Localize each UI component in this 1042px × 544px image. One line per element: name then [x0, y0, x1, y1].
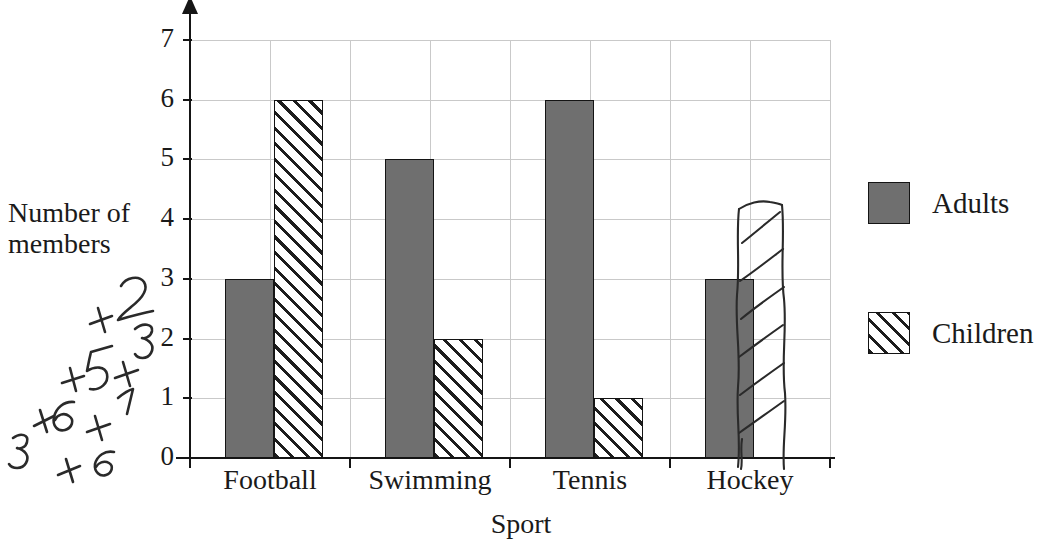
gridline-vertical: [830, 40, 831, 458]
bar-football-adults: [225, 279, 274, 458]
bar-tennis-children: [594, 398, 643, 458]
y-axis-title-line1: Number of: [8, 197, 168, 228]
bar-hockey-adults: [705, 279, 754, 458]
y-tick-mark: [183, 218, 192, 220]
y-axis-line: [189, 6, 191, 460]
legend-label-adults: Adults: [932, 189, 1009, 218]
y-tick-label: 2: [140, 324, 174, 351]
legend-label-children: Children: [932, 319, 1034, 348]
y-tick-label: 0: [140, 443, 174, 470]
bar-swimming-adults: [385, 159, 434, 458]
gridline-vertical: [510, 40, 511, 458]
y-tick-label: 5: [140, 144, 174, 171]
bar-swimming-children: [434, 339, 483, 458]
y-tick-label: 6: [140, 85, 174, 112]
y-tick-mark: [183, 158, 192, 160]
hatched-swatch-icon: [868, 312, 910, 354]
solid-gray-swatch-icon: [868, 182, 910, 224]
y-tick-mark: [183, 397, 192, 399]
y-axis-title: Number of members: [8, 197, 168, 260]
gridline-vertical: [350, 40, 351, 458]
bar-chart-figure: 01234567 FootballSwimmingTennisHockey Nu…: [0, 0, 1042, 544]
y-tick-label: 7: [140, 25, 174, 52]
legend-item-children[interactable]: Children: [868, 312, 1034, 354]
x-tick-label: Swimming: [350, 466, 510, 494]
x-axis-title: Sport: [0, 508, 1042, 540]
legend-item-adults[interactable]: Adults: [868, 182, 1009, 224]
x-tick-label: Football: [190, 466, 350, 494]
handwritten-sum-annotation: [2, 250, 162, 485]
bar-football-children: [274, 100, 323, 458]
y-tick-mark: [183, 338, 192, 340]
y-axis-arrow-icon: [182, 0, 198, 14]
y-tick-label: 1: [140, 383, 174, 410]
y-tick-mark: [183, 39, 192, 41]
gridline-vertical: [670, 40, 671, 458]
y-tick-label: 3: [140, 264, 174, 291]
x-tick-label: Hockey: [670, 466, 830, 494]
bar-tennis-adults: [545, 100, 594, 458]
y-axis-title-line2: members: [8, 228, 168, 259]
y-tick-mark: [183, 278, 192, 280]
x-tick-label: Tennis: [510, 466, 670, 494]
y-tick-mark: [183, 99, 192, 101]
